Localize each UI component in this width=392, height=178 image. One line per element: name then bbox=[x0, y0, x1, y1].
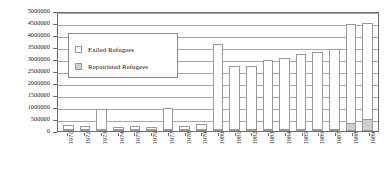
y-axis-tick-label: 3000000 bbox=[28, 55, 50, 62]
legend-item-repatriated: Repatriated Refugees bbox=[75, 58, 177, 75]
x-axis-tick: 1971 bbox=[59, 133, 76, 178]
bar-slot bbox=[260, 13, 277, 131]
x-axis-tick: 1972 bbox=[76, 133, 93, 178]
y-axis-tick-label: 1500000 bbox=[28, 91, 50, 98]
bar-segment-exiled bbox=[163, 108, 174, 129]
y-axis-tick-label: 5000000 bbox=[28, 7, 50, 14]
stacked-bar[interactable] bbox=[329, 49, 340, 131]
bar-slot bbox=[326, 13, 343, 131]
y-axis-tick-label: 1000000 bbox=[28, 103, 50, 110]
stacked-bar[interactable] bbox=[279, 58, 290, 131]
bar-slot bbox=[193, 13, 210, 131]
x-axis-tick-label: 1986 bbox=[318, 132, 325, 145]
legend-swatch-repatriated-icon bbox=[75, 63, 82, 70]
bar-slot bbox=[293, 13, 310, 131]
x-axis: 1971197219731974197519761977197819791980… bbox=[57, 133, 379, 178]
x-axis-tick: 1988 bbox=[343, 133, 360, 178]
stacked-bar[interactable] bbox=[113, 127, 124, 131]
stacked-bar[interactable] bbox=[296, 54, 307, 131]
x-axis-tick: 1986 bbox=[310, 133, 327, 178]
stacked-bar[interactable] bbox=[213, 44, 224, 131]
bar-slot bbox=[226, 13, 243, 131]
bar-segment-exiled bbox=[246, 66, 257, 129]
x-axis-tick: 1985 bbox=[293, 133, 310, 178]
stacked-bar[interactable] bbox=[346, 24, 357, 131]
x-axis-tick: 1973 bbox=[92, 133, 109, 178]
bar-segment-exiled bbox=[362, 23, 373, 119]
stacked-bar[interactable] bbox=[312, 52, 323, 131]
legend-label-repatriated: Repatriated Refugees bbox=[88, 63, 148, 71]
bar-slot bbox=[276, 13, 293, 131]
bar-slot bbox=[210, 13, 227, 131]
x-axis-tick: 1989 bbox=[360, 133, 377, 178]
y-axis-tick-label: 4500000 bbox=[28, 19, 50, 26]
x-axis-tick: 1983 bbox=[260, 133, 277, 178]
x-axis-tick-label: 1980 bbox=[218, 132, 225, 145]
x-axis-tick-label: 1983 bbox=[268, 132, 275, 145]
stacked-bar[interactable] bbox=[263, 60, 274, 131]
legend-item-exiled: Exiled Refugees bbox=[75, 41, 177, 58]
x-axis-tick-label: 1973 bbox=[101, 132, 108, 145]
x-axis-tick: 1987 bbox=[327, 133, 344, 178]
bar-segment-exiled bbox=[96, 109, 107, 129]
y-axis-tick-label: 4000000 bbox=[28, 31, 50, 38]
x-axis-tick: 1975 bbox=[126, 133, 143, 178]
y-axis-tick-label: 2500000 bbox=[28, 67, 50, 74]
stacked-bar[interactable] bbox=[80, 126, 91, 131]
x-axis-tick-label: 1985 bbox=[302, 132, 309, 145]
x-axis-tick: 1984 bbox=[277, 133, 294, 178]
x-axis-tick: 1976 bbox=[143, 133, 160, 178]
x-axis-tick-label: 1972 bbox=[84, 132, 91, 145]
y-axis-tick-label: 0 bbox=[47, 127, 50, 134]
stacked-bar[interactable] bbox=[96, 109, 107, 131]
x-axis-tick-label: 1981 bbox=[235, 132, 242, 145]
y-axis-tick-label: 2000000 bbox=[28, 79, 50, 86]
stacked-bar[interactable] bbox=[229, 66, 240, 131]
bar-segment-exiled bbox=[279, 58, 290, 129]
x-axis-tick-label: 1976 bbox=[151, 132, 158, 145]
x-axis-tick-label: 1984 bbox=[285, 132, 292, 145]
bar-slot bbox=[243, 13, 260, 131]
bar-segment-exiled bbox=[296, 54, 307, 129]
x-axis-tick-label: 1988 bbox=[352, 132, 359, 145]
legend-label-exiled: Exiled Refugees bbox=[88, 46, 134, 54]
stacked-bar[interactable] bbox=[130, 126, 141, 131]
bar-segment-exiled bbox=[346, 24, 357, 123]
x-axis-tick: 1979 bbox=[193, 133, 210, 178]
x-axis-tick: 1978 bbox=[176, 133, 193, 178]
x-axis-tick-label: 1977 bbox=[168, 132, 175, 145]
bar-slot bbox=[309, 13, 326, 131]
bar-segment-exiled bbox=[312, 52, 323, 129]
x-axis-tick: 1974 bbox=[109, 133, 126, 178]
x-axis-tick: 1977 bbox=[159, 133, 176, 178]
bar-segment-exiled bbox=[263, 60, 274, 129]
y-axis-tick-label: 3500000 bbox=[28, 43, 50, 50]
stacked-bar[interactable] bbox=[196, 124, 207, 131]
bar-segment-repatriated bbox=[362, 119, 373, 131]
x-axis-tick-label: 1987 bbox=[335, 132, 342, 145]
bar-slot bbox=[176, 13, 193, 131]
stacked-bar[interactable] bbox=[163, 108, 174, 131]
x-axis-tick-label: 1978 bbox=[185, 132, 192, 145]
y-axis-tick-label: 500000 bbox=[31, 115, 50, 122]
x-axis-tick-label: 1989 bbox=[369, 132, 376, 145]
x-axis-tick-label: 1975 bbox=[134, 132, 141, 145]
stacked-bar[interactable] bbox=[246, 66, 257, 131]
bar-slot bbox=[343, 13, 360, 131]
stacked-bar[interactable] bbox=[63, 125, 74, 131]
y-axis: 5000000450000040000003500000300000025000… bbox=[0, 12, 57, 132]
stacked-bar[interactable] bbox=[146, 127, 157, 131]
x-axis-tick: 1980 bbox=[210, 133, 227, 178]
refugee-bar-chart: 5000000450000040000003500000300000025000… bbox=[0, 0, 392, 178]
bar-segment-exiled bbox=[329, 49, 340, 128]
x-axis-tick: 1982 bbox=[243, 133, 260, 178]
bar-segment-repatriated bbox=[346, 123, 357, 131]
x-axis-tick-label: 1971 bbox=[67, 132, 74, 145]
stacked-bar[interactable] bbox=[179, 126, 190, 131]
x-axis-tick-label: 1974 bbox=[118, 132, 125, 145]
bar-slot bbox=[359, 13, 376, 131]
legend-swatch-exiled-icon bbox=[75, 46, 82, 53]
bar-segment-exiled bbox=[229, 66, 240, 129]
x-axis-tick-label: 1979 bbox=[201, 132, 208, 145]
stacked-bar[interactable] bbox=[362, 23, 373, 131]
